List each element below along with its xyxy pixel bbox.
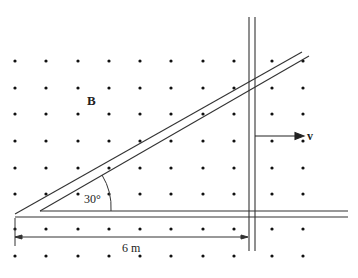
field-dot-icon	[169, 227, 172, 230]
field-dot-icon	[232, 139, 235, 142]
field-dot-icon	[201, 59, 204, 62]
field-dot-icon	[44, 166, 47, 169]
field-dot-icon	[44, 59, 47, 62]
physics-diagram: B v 30° 6 m	[0, 0, 358, 278]
angle-arc	[102, 175, 111, 211]
field-dot-icon	[76, 192, 79, 195]
arrow-right-icon	[295, 133, 304, 140]
field-dot-icon	[44, 192, 47, 195]
field-dot-icon	[301, 112, 304, 115]
field-dot-icon	[44, 227, 47, 230]
field-dot-icon	[44, 139, 47, 142]
field-dot-icon	[169, 166, 172, 169]
dimension-arrowhead-right-icon	[241, 235, 248, 239]
horizontal-rail	[15, 211, 348, 217]
field-dot-icon	[138, 86, 141, 89]
field-dot-icon	[169, 59, 172, 62]
field-dot-icon	[201, 112, 204, 115]
field-dot-icon	[13, 166, 16, 169]
field-dot-icon	[270, 192, 273, 195]
field-dot-icon	[76, 227, 79, 230]
dimension-arrowhead-left-icon	[15, 235, 22, 239]
field-dot-icon	[201, 139, 204, 142]
field-dot-icon	[44, 112, 47, 115]
field-dot-icon	[301, 254, 304, 257]
field-dot-icon	[232, 227, 235, 230]
field-dot-icon	[201, 227, 204, 230]
field-dot-icon	[76, 139, 79, 142]
field-dot-icon	[138, 139, 141, 142]
field-dot-icon	[301, 227, 304, 230]
field-dot-icon	[76, 254, 79, 257]
field-dot-icon	[76, 86, 79, 89]
field-label: B	[87, 93, 96, 108]
field-dot-icon	[201, 86, 204, 89]
field-dot-icon	[138, 59, 141, 62]
field-dot-icon	[138, 166, 141, 169]
field-dot-icon	[232, 192, 235, 195]
field-dot-icon	[301, 166, 304, 169]
field-dot-icon	[201, 254, 204, 257]
field-dot-icon	[107, 166, 110, 169]
field-dot-icon	[138, 112, 141, 115]
field-dot-icon	[107, 139, 110, 142]
velocity-label: v	[307, 129, 313, 143]
field-dot-icon	[270, 112, 273, 115]
field-dot-icon	[13, 112, 16, 115]
field-dot-icon	[13, 59, 16, 62]
field-dot-icon	[232, 254, 235, 257]
field-dot-icon	[13, 254, 16, 257]
field-dot-icon	[201, 166, 204, 169]
field-dot-icon	[138, 192, 141, 195]
field-dot-icon	[169, 86, 172, 89]
field-dot-icon	[232, 112, 235, 115]
field-dot-icon	[169, 192, 172, 195]
field-dot-icon	[44, 86, 47, 89]
field-dot-icon	[107, 112, 110, 115]
field-dot-icon	[169, 139, 172, 142]
field-dot-icon	[270, 139, 273, 142]
field-dot-icon	[107, 254, 110, 257]
field-dot-icon	[44, 254, 47, 257]
field-dot-icon	[13, 139, 16, 142]
velocity-arrow	[255, 133, 304, 140]
field-dot-icon	[169, 254, 172, 257]
field-dot-icon	[138, 227, 141, 230]
field-dot-icon	[13, 192, 16, 195]
field-dot-icon	[76, 166, 79, 169]
sliding-rod	[249, 17, 255, 251]
field-dot-icon	[270, 254, 273, 257]
distance-label: 6 m	[122, 241, 141, 255]
field-dot-icon	[201, 192, 204, 195]
field-dot-icon	[270, 86, 273, 89]
field-dot-icon	[76, 112, 79, 115]
field-dot-icon	[301, 86, 304, 89]
field-dot-icon	[270, 166, 273, 169]
field-dot-icon	[107, 227, 110, 230]
field-dot-icon	[169, 112, 172, 115]
field-dot-icon	[76, 59, 79, 62]
field-dot-icon	[232, 59, 235, 62]
field-dot-icon	[107, 86, 110, 89]
magnetic-field-dots	[13, 59, 304, 257]
field-dot-icon	[13, 86, 16, 89]
field-dot-icon	[301, 192, 304, 195]
field-dot-icon	[232, 166, 235, 169]
field-dot-icon	[270, 59, 273, 62]
field-dot-icon	[301, 139, 304, 142]
field-dot-icon	[270, 227, 273, 230]
field-dot-icon	[107, 59, 110, 62]
diagonal-rail	[15, 52, 309, 214]
angle-label: 30°	[84, 192, 101, 206]
